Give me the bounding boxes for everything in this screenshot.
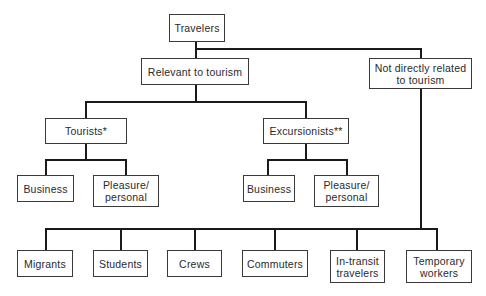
travelers-classification-diagram: Travelers Relevant to tourism Not direct… [0,0,486,296]
connector [125,159,127,175]
node-label-line1: Temporary [413,255,464,267]
connector [45,159,47,175]
node-label-line1: In-transit [336,255,379,267]
node-label: Migrants [24,258,66,270]
node-tourists-pleasure: Pleasure/ personal [93,175,159,207]
connector [45,228,438,230]
node-crews: Crews [167,250,222,277]
node-migrants: Migrants [17,250,73,277]
node-students: Students [93,250,148,277]
node-label-line1: Pleasure/ [103,179,149,191]
connector [420,89,422,229]
node-temporary-workers: Temporary workers [406,250,472,283]
node-label: Business [23,183,67,195]
connector [194,228,196,250]
connector [356,228,358,250]
connector [267,159,269,175]
connector [436,228,438,250]
node-label-line2: personal [105,191,147,203]
connector [267,159,348,161]
node-label: Crews [179,258,210,270]
connector [85,101,307,103]
connector [305,101,307,118]
connector [45,228,47,250]
node-label: Tourists* [65,125,107,137]
node-excursionists: Excursionists** [263,118,349,144]
connector [85,144,87,160]
node-label: Travelers [174,22,219,34]
node-excursionists-business: Business [243,175,295,202]
node-label: Commuters [247,258,303,270]
node-excursionists-pleasure: Pleasure/ personal [314,175,379,207]
node-label: Business [247,183,291,195]
connector [120,228,122,250]
node-label-line1: Not directly related [375,62,467,74]
node-label-line1: Pleasure/ [323,179,369,191]
node-label-line2: to tourism [396,74,444,86]
node-label-line2: personal [326,191,368,203]
node-tourists: Tourists* [45,118,127,144]
node-label-line2: workers [420,267,458,279]
node-in-transit-travelers: In-transit travelers [330,250,385,283]
connector [45,159,127,161]
node-label: Students [99,258,142,270]
node-label: Excursionists** [269,125,342,137]
node-relevant-to-tourism: Relevant to tourism [141,58,249,85]
node-commuters: Commuters [242,250,308,277]
connector [346,159,348,175]
node-not-directly-related: Not directly related to tourism [369,58,472,89]
connector [420,48,422,58]
connector [305,144,307,160]
node-tourists-business: Business [17,175,74,202]
connector [274,228,276,250]
node-travelers: Travelers [169,14,225,42]
node-label: Relevant to tourism [148,66,242,78]
connector [85,101,87,118]
connector [195,85,197,102]
node-label-line2: travelers [336,267,378,279]
connector [195,48,422,50]
